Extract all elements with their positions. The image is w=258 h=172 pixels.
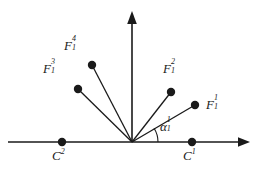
label-c2-base: C (52, 148, 61, 163)
label-f1-2-subscript: 1 (171, 67, 175, 75)
vector-dot-f1-1 (191, 101, 199, 109)
label-c1-superscript: 1 (192, 147, 196, 156)
y-axis-arrowhead (127, 11, 137, 24)
vector-line-f1-3 (78, 89, 132, 142)
label-f1-3: F31 (43, 60, 58, 76)
label-c2-superscript: 2 (61, 147, 65, 156)
label-f1-3-subscript: 1 (51, 67, 55, 75)
label-f1-1-superscript: 1 (214, 94, 218, 102)
label-alpha-1-1: α11 (160, 118, 174, 134)
label-f1-2-base: F (163, 61, 171, 76)
label-f1-4-indices: 41 (72, 37, 79, 50)
label-c1-base: C (183, 148, 192, 163)
label-f1-3-base: F (43, 61, 51, 76)
vector-dot-f1-3 (74, 85, 82, 93)
label-f1-4-subscript: 1 (72, 44, 76, 52)
label-f1-3-indices: 31 (51, 60, 58, 73)
label-f1-4: F41 (64, 37, 79, 53)
vector-dot-f1-4 (88, 61, 96, 69)
axis-dot-c1 (188, 138, 196, 146)
vector-line-f1-2 (132, 92, 171, 142)
label-alpha-1-1-base: α (160, 119, 167, 134)
x-axis-arrowhead (238, 137, 250, 147)
label-f1-2: F21 (163, 60, 178, 76)
label-f1-4-base: F (64, 38, 72, 53)
diagram-canvas (0, 0, 258, 172)
label-f1-1-indices: 11 (214, 96, 221, 109)
label-alpha-1-1-superscript: 1 (167, 116, 171, 124)
label-f1-2-indices: 21 (171, 60, 178, 73)
label-f1-1: F11 (206, 96, 221, 112)
label-f1-1-base: F (206, 97, 214, 112)
label-alpha-1-1-subscript: 1 (167, 125, 171, 133)
vector-dot-f1-2 (167, 88, 175, 96)
vector-line-f1-4 (92, 65, 132, 142)
label-alpha-1-1-indices: 11 (167, 118, 174, 131)
label-f1-3-superscript: 3 (51, 58, 55, 66)
label-f1-1-subscript: 1 (214, 103, 218, 111)
label-f1-2-superscript: 2 (171, 58, 175, 66)
axis-dot-c2 (58, 138, 66, 146)
label-c1: C1 (183, 147, 196, 163)
angle-arc-alpha-1-1 (154, 128, 158, 142)
label-f1-4-superscript: 4 (72, 35, 76, 43)
label-c2: C2 (52, 147, 65, 163)
vector-diagram-figure: F11 F21 F31 F41 α11 C2 C1 (0, 0, 258, 172)
